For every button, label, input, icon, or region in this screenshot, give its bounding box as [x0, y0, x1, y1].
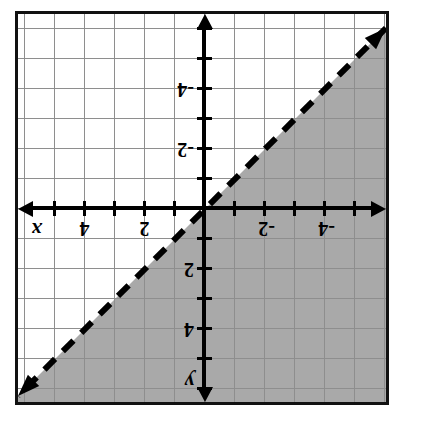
y-axis-label: y	[185, 371, 194, 392]
plot-area: -4-224-4-224xy	[18, 14, 386, 402]
dashed-boundary	[18, 28, 386, 396]
x-tick-label: -2	[258, 219, 275, 239]
x-tick-label: -4	[318, 219, 335, 239]
graph-canvas: -4-224-4-224xy	[0, 0, 423, 432]
y-tick-label: -4	[177, 80, 194, 100]
boundary-line	[18, 14, 386, 402]
boundary-line-svg	[18, 14, 386, 402]
rotated-figure: -4-224-4-224xy	[0, 0, 423, 416]
boundary-arrow-start	[365, 28, 386, 49]
x-tick-label: 4	[80, 219, 90, 239]
x-tick-label: 2	[140, 219, 150, 239]
x-axis-label: x	[32, 219, 43, 240]
y-tick-label: 2	[184, 260, 194, 280]
plot-border: -4-224-4-224xy	[15, 11, 389, 405]
y-tick-label: -2	[177, 140, 194, 160]
y-tick-label: 4	[184, 320, 194, 340]
